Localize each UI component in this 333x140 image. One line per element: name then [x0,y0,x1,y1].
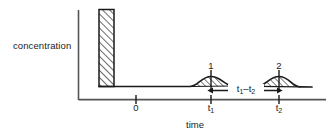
tick-label-t2: t2 [272,103,286,114]
concentration-time-figure: concentration time 1 2 0 t1 t2 t1–t2 [0,0,333,140]
peak-2-label: 2 [273,61,285,71]
interval-annotation-label: t1–t2 [228,84,264,95]
interval-sub-2: 2 [251,88,255,95]
tick-label-t1-subscript: 1 [210,107,214,114]
input-pulse-bar [99,10,114,87]
y-axis-label: concentration [13,41,71,51]
peak-1-label: 1 [205,61,217,71]
tick-label-t2-subscript: 2 [278,107,282,114]
tick-label-zero: 0 [131,103,141,113]
x-axis-label: time [186,120,204,130]
tick-label-t1: t1 [204,103,218,114]
